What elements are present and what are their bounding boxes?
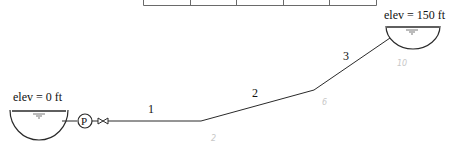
pencil-mark-node-1: 2: [211, 135, 216, 143]
pipe-3: [314, 38, 390, 90]
pencil-mark-node-2: 6: [322, 99, 327, 107]
right-reservoir: [386, 26, 440, 49]
pipe-1-label: 1: [148, 103, 154, 115]
pump-symbol-label: P: [81, 115, 87, 127]
right-reservoir-elevation-label: elev = 150 ft: [384, 9, 445, 21]
pipe-2-label: 2: [252, 87, 258, 99]
diagram-svg: [0, 0, 458, 148]
pipe-3-label: 3: [343, 50, 349, 62]
valve-icon: [98, 118, 108, 124]
left-reservoir: [10, 110, 68, 140]
pipe-network-diagram: elev = 0 ft elev = 150 ft P 1 2 3 2 6 10: [0, 0, 458, 148]
left-reservoir-elevation-label: elev = 0 ft: [13, 91, 62, 103]
data-table: [144, 0, 377, 6]
pencil-mark-reservoir: 10: [397, 60, 407, 68]
